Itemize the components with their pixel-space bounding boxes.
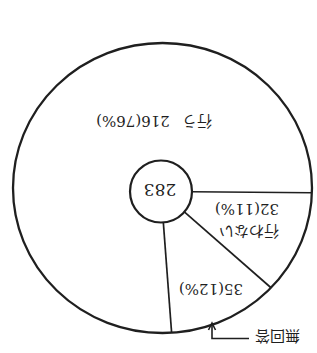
callout-label: 無回答 — [255, 327, 300, 345]
slice-label-do: 行う216(76%) — [96, 112, 212, 130]
slice-label-no-answer-value: 35(12%) — [179, 280, 243, 298]
slice-label-do-name: 行う — [182, 112, 212, 130]
slice-divider-pie-slice-do-not — [192, 192, 312, 193]
pie-chart: 283 行う216(76%) 行わない 32(11%) 35(12%) 無回答 — [0, 0, 317, 353]
center-total-label: 283 — [144, 180, 176, 200]
slice-label-do-not-value: 32(11%) — [215, 200, 279, 218]
slice-label-do-not-name: 行わない — [219, 222, 279, 240]
slice-label-do-value: 216(76%) — [96, 112, 170, 130]
